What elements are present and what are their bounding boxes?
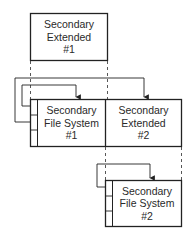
label-line: #1 [44, 43, 94, 56]
label-line: Secondary [44, 104, 99, 117]
label-line: File System [44, 117, 99, 130]
label-line: File System [120, 197, 175, 210]
label-line: Secondary [118, 104, 168, 117]
label-line: Secondary [120, 185, 175, 198]
label-secondary-file-system-1: Secondary File System #1 [38, 100, 105, 146]
label-line: Extended [118, 117, 168, 130]
label-line: #2 [120, 210, 175, 223]
label-line: #2 [118, 129, 168, 142]
label-line: #1 [44, 129, 99, 142]
label-line: Secondary [44, 18, 94, 31]
label-secondary-extended-1: Secondary Extended #1 [31, 14, 107, 60]
label-line: Extended [44, 31, 94, 44]
label-secondary-file-system-2: Secondary File System #2 [113, 181, 181, 226]
label-secondary-extended-2: Secondary Extended #2 [106, 100, 181, 146]
